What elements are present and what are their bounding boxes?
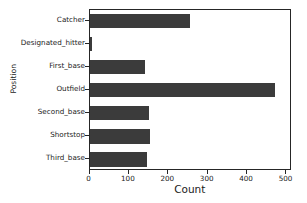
bar-row [90,106,291,120]
bar-row [90,37,291,51]
y-tick-label-outfield: Outfield [56,85,85,92]
bar-second_base[interactable] [90,106,149,120]
x-tick-mark [246,170,247,174]
y-tick-mark [85,66,89,67]
x-tick-label-500: 500 [270,175,300,182]
bar-chart-figure: Position CatcherDesignated_hitterFirst_b… [0,0,307,203]
bar-row [90,129,291,143]
x-tick-mark [285,170,286,174]
bar-row [90,83,291,97]
y-tick-label-first_base: First_base [49,62,85,69]
bar-row [90,14,291,28]
bar-row [90,152,291,166]
x-axis-title: Count [89,184,292,196]
bar-third_base[interactable] [90,152,148,166]
bar-designated_hitter[interactable] [90,37,93,51]
x-tick-label-100: 100 [113,175,143,182]
y-axis-title: Position [10,49,18,109]
x-tick-label-400: 400 [231,175,261,182]
x-tick-mark [89,170,90,174]
y-tick-mark [85,158,89,159]
bar-shortstop[interactable] [90,129,151,143]
x-tick-mark [207,170,208,174]
bar-first_base[interactable] [90,60,145,74]
y-tick-label-catcher: Catcher [57,16,85,23]
x-tick-mark [167,170,168,174]
plot-area [89,9,292,171]
bar-catcher[interactable] [90,14,190,28]
y-tick-mark [85,20,89,21]
bar-outfield[interactable] [90,83,276,97]
y-tick-mark [85,135,89,136]
x-tick-label-300: 300 [192,175,222,182]
y-tick-label-second_base: Second_base [38,108,85,115]
bar-series [90,10,291,170]
x-tick-mark [128,170,129,174]
y-tick-label-shortstop: Shortstop [50,131,85,138]
y-tick-mark [85,112,89,113]
x-tick-label-200: 200 [152,175,182,182]
y-tick-mark [85,43,89,44]
x-tick-label-0: 0 [74,175,104,182]
y-tick-mark [85,89,89,90]
bar-row [90,60,291,74]
y-tick-label-designated_hitter: Designated_hitter [21,39,85,46]
y-tick-label-third_base: Third_base [46,154,85,161]
